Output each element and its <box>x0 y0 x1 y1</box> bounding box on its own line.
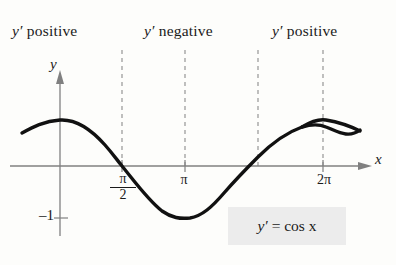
tick-label-pi-over-2-denominator: 2 <box>110 188 136 203</box>
tick-label-two-pi: 2π <box>309 172 339 188</box>
region-label-negative: y′ negative <box>144 22 213 40</box>
equation-rhs: = cos x <box>272 217 317 234</box>
region-label-prime-middle: y′ <box>144 22 155 39</box>
tick-label-pi-over-2: π 2 <box>110 172 136 202</box>
x-axis-label: x <box>375 151 382 168</box>
region-label-prime-right: y′ <box>272 22 283 39</box>
y-axis-arrowhead <box>56 70 64 84</box>
region-label-text-right: positive <box>287 22 338 39</box>
region-label-prime-left: y′ <box>12 22 23 39</box>
region-label-text-middle: negative <box>159 22 213 39</box>
y-axis-label: y <box>50 56 57 73</box>
region-label-positive-left: y′ positive <box>12 22 77 40</box>
region-label-text-left: positive <box>27 22 78 39</box>
equation-lhs: y′ <box>257 217 267 234</box>
x-axis-arrowhead <box>358 162 372 170</box>
tick-label-pi-over-2-numerator: π <box>110 172 136 188</box>
tick-label-pi: π <box>174 172 194 188</box>
tick-label-minus-one: –1 <box>24 207 54 224</box>
equation-box: y′ = cos x <box>228 207 346 245</box>
sine-curve <box>22 120 360 218</box>
equation-text: y′ = cos x <box>257 217 316 235</box>
region-label-positive-right: y′ positive <box>272 22 337 40</box>
